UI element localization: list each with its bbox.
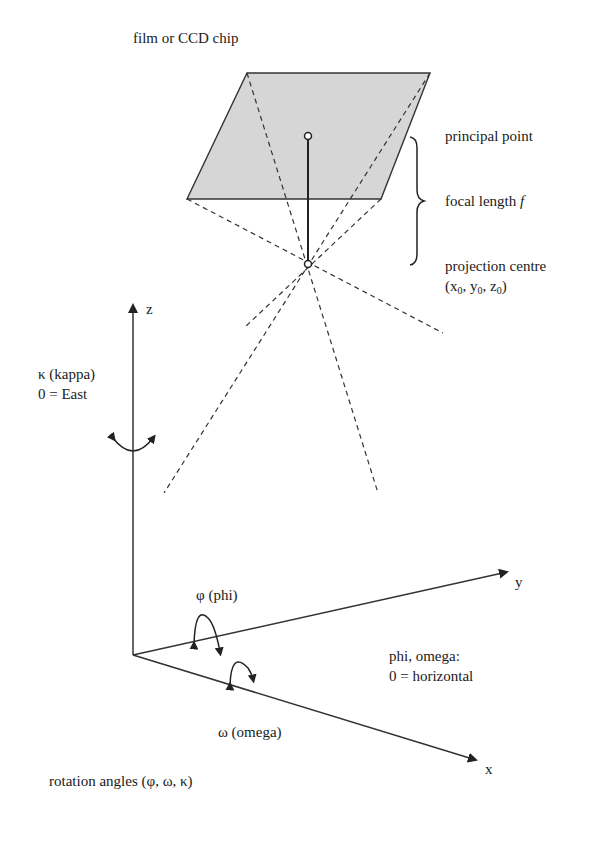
principal-point-label: principal point	[445, 127, 533, 145]
y-axis-label: y	[515, 573, 523, 591]
film-label: film or CCD chip	[133, 29, 238, 47]
coord-x: (x	[445, 278, 458, 294]
coord-z: , z	[483, 278, 497, 294]
omega-label: ω (omega)	[218, 723, 282, 741]
projection-centre-coords: (x0, y0, z0)	[445, 277, 507, 300]
principal-point-marker	[305, 133, 312, 140]
z-axis-label: z	[146, 300, 153, 318]
kappa-label: κ (kappa)	[38, 365, 95, 383]
phi-label: φ (phi)	[196, 586, 238, 604]
phi-omega-label: phi, omega:	[389, 647, 460, 665]
phi-omega-zero-label: 0 = horizontal	[389, 667, 473, 685]
y-axis	[133, 572, 507, 655]
omega-rotation-arrow	[230, 662, 253, 686]
kappa-zero-label: 0 = East	[38, 385, 87, 403]
focal-length-label: focal length f	[445, 192, 524, 210]
x-axis-label: x	[485, 760, 493, 778]
phi-rotation-arrow	[194, 615, 220, 652]
coord-close: )	[502, 278, 507, 294]
rotation-angles-label: rotation angles (φ, ω, κ)	[49, 772, 193, 790]
focal-length-symbol: f	[520, 193, 524, 209]
camera-geometry-diagram: film or CCD chip principal point focal l…	[0, 0, 612, 846]
focal-length-text: focal length	[445, 193, 520, 209]
focal-length-brace	[410, 137, 424, 265]
projection-centre-marker	[305, 261, 312, 268]
coord-y: , y	[463, 278, 478, 294]
projection-centre-label: projection centre	[445, 257, 546, 275]
